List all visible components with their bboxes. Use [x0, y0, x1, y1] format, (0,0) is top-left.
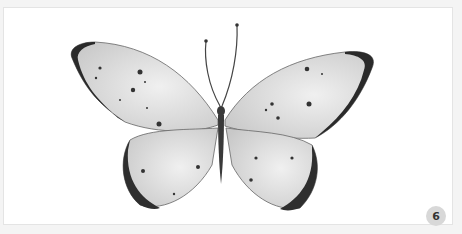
- butterfly-body: [218, 115, 224, 184]
- upper-right-wing: [225, 52, 373, 139]
- upper-left-wing: [71, 42, 218, 131]
- butterfly-head: [217, 106, 225, 116]
- page-number-badge: 6: [426, 206, 446, 226]
- antenna-right: [222, 25, 237, 106]
- antenna-left: [206, 41, 220, 106]
- butterfly-illustration: [0, 0, 462, 234]
